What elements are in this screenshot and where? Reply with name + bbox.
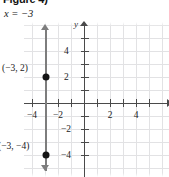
- y-tick-5: [81, 38, 89, 39]
- y-tick-label-2: 2: [64, 72, 69, 82]
- x-tick-1: [97, 99, 98, 107]
- x-tick-2: [110, 99, 111, 107]
- y-axis: [84, 22, 85, 177]
- figure-equation: x = −3: [4, 8, 33, 19]
- coordinate-plane: y −4 −2 2 4 4 2 −2 −4 (−3, 2) (−3, −4): [24, 22, 169, 177]
- y-tick-2: [81, 77, 89, 78]
- y-tick-4: [81, 51, 89, 52]
- x-tick-4: [136, 99, 137, 107]
- plot-point-lower: [42, 152, 49, 159]
- y-tick--1: [81, 116, 89, 117]
- line-arrow-up-icon: [41, 24, 49, 30]
- y-axis-arrow-icon: [80, 21, 88, 26]
- x-axis-arrow-icon: [167, 99, 169, 107]
- y-tick-label-4: 4: [64, 46, 69, 56]
- y-tick--3: [81, 142, 89, 143]
- x-tick--4: [32, 99, 33, 107]
- plot-point-upper: [42, 74, 49, 81]
- y-tick-label--4: −4: [61, 150, 71, 160]
- line-arrow-down-icon: [41, 165, 49, 171]
- plot-point-upper-label: (−3, 2): [2, 63, 28, 73]
- y-tick-label--2: −2: [61, 124, 71, 134]
- y-tick-3: [81, 64, 89, 65]
- y-tick--2: [81, 129, 89, 130]
- figure-title: Figure 4): [3, 0, 48, 5]
- x-tick-label--4: −4: [27, 110, 37, 120]
- x-tick-label--2: −2: [53, 110, 63, 120]
- x-tick-label-4: 4: [134, 110, 139, 120]
- x-tick--1: [71, 99, 72, 107]
- plot-point-lower-label: (−3, −4): [0, 141, 29, 151]
- y-tick-1: [81, 90, 89, 91]
- x-tick-label-2: 2: [108, 110, 113, 120]
- x-tick--2: [58, 99, 59, 107]
- graph-line-x-equals-minus-3: [45, 29, 47, 171]
- y-tick--4: [81, 155, 89, 156]
- y-axis-label: y: [74, 19, 78, 29]
- x-tick-3: [123, 99, 124, 107]
- grid-fade-bottom: [24, 173, 169, 177]
- x-tick-5: [149, 99, 150, 107]
